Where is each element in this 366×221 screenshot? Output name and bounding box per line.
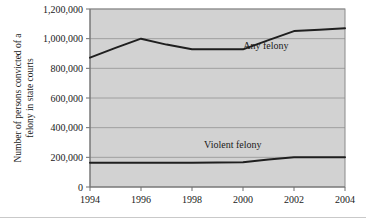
chart-figure: 0200,000400,000600,000800,0001,000,0001,… bbox=[0, 0, 366, 221]
ytick-label-200000: 200,000 bbox=[51, 152, 84, 163]
xtick-label-2004: 2004 bbox=[335, 194, 355, 205]
ytick-label-0: 0 bbox=[78, 182, 83, 193]
y-axis-title-line-2: felony in state courts bbox=[25, 58, 35, 138]
ytick-label-800000: 800,000 bbox=[51, 63, 84, 74]
ytick-label-600000: 600,000 bbox=[51, 93, 84, 104]
xtick-label-2002: 2002 bbox=[284, 194, 304, 205]
series-label-any-felony: Any felony bbox=[243, 40, 288, 51]
y-axis-title: Number of persons convicted of afelony i… bbox=[13, 33, 35, 163]
line-chart: 0200,000400,000600,000800,0001,000,0001,… bbox=[0, 0, 366, 221]
series-label-violent-felony: Violent felony bbox=[204, 139, 261, 150]
ytick-label-1200000: 1,200,000 bbox=[43, 4, 83, 15]
ytick-label-1000000: 1,000,000 bbox=[43, 33, 83, 44]
xtick-label-2000: 2000 bbox=[233, 194, 253, 205]
xtick-label-1994: 1994 bbox=[80, 194, 100, 205]
footer-divider bbox=[0, 217, 366, 218]
ytick-label-400000: 400,000 bbox=[51, 122, 84, 133]
y-axis-title-line-1: Number of persons convicted of a bbox=[13, 33, 23, 163]
xtick-label-1998: 1998 bbox=[182, 194, 202, 205]
xtick-label-1996: 1996 bbox=[131, 194, 151, 205]
